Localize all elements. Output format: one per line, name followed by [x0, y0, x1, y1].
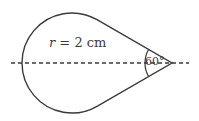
- radius-value: = 2 cm: [55, 35, 106, 50]
- diagram-svg: [0, 0, 199, 121]
- teardrop-diagram: r = 2 cm 60°: [0, 0, 199, 121]
- angle-label: 60°: [145, 55, 165, 68]
- radius-label: r = 2 cm: [49, 35, 106, 50]
